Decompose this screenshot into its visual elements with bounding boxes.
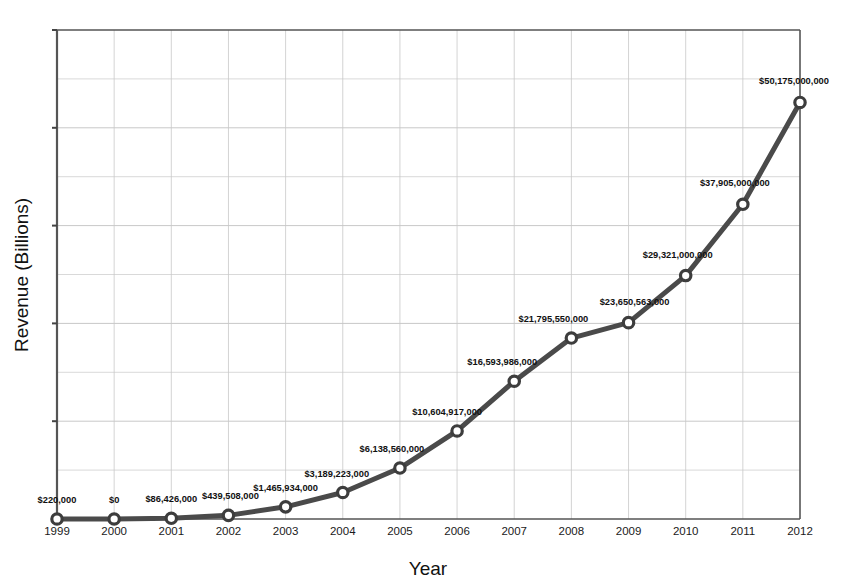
data-point-marker [338, 487, 348, 497]
x-axis-tick-label: 2009 [616, 525, 642, 537]
x-axis-tick-label: 2002 [216, 525, 242, 537]
x-axis-tick-label: 1999 [44, 525, 70, 537]
x-axis-tick-label: 2007 [501, 525, 527, 537]
y-axis-title: Revenue (Billions) [11, 198, 32, 352]
data-point-label: $29,321,000,000 [643, 250, 713, 260]
x-axis-tick-label: 2011 [730, 525, 755, 537]
x-axis-tick-label: 2006 [444, 525, 470, 537]
x-axis-tick-label: 2003 [273, 525, 299, 537]
x-axis-tick-label: 2000 [101, 525, 127, 537]
data-point-marker [166, 513, 176, 523]
x-axis-title: Year [409, 558, 448, 579]
data-point-marker [623, 317, 633, 327]
revenue-line-chart: $220,000$0$86,426,000$439,508,000$1,465,… [0, 0, 853, 587]
data-point-marker [738, 199, 748, 209]
data-point-label: $21,795,550,000 [518, 314, 588, 324]
data-point-label: $23,650,563,000 [600, 297, 670, 307]
data-point-label: $50,175,000,000 [759, 76, 829, 86]
x-axis-tick-label: 2001 [159, 525, 185, 537]
data-point-label: $6,138,560,000 [360, 444, 425, 454]
x-axis-tick-label: 2005 [387, 525, 413, 537]
x-axis-tick-label: 2012 [787, 525, 813, 537]
data-point-marker [223, 510, 233, 520]
x-axis-tick-label: 2010 [673, 525, 699, 537]
data-point-label: $3,189,223,000 [304, 469, 369, 479]
x-axis-tick-label: 2008 [559, 525, 585, 537]
data-point-label: $0 [109, 495, 119, 505]
data-point-label: $439,508,000 [202, 491, 259, 501]
data-point-marker [452, 426, 462, 436]
data-point-marker [566, 333, 576, 343]
data-point-label: $86,426,000 [145, 494, 197, 504]
data-point-label: $10,604,917,000 [412, 407, 482, 417]
data-point-marker [280, 502, 290, 512]
data-point-marker [680, 270, 690, 280]
data-point-label: $37,905,000,000 [700, 178, 770, 188]
data-point-marker [109, 514, 119, 524]
chart-background [0, 0, 853, 587]
data-point-marker [795, 97, 805, 107]
data-point-label: $220,000 [38, 495, 77, 505]
data-point-marker [509, 376, 519, 386]
data-point-marker [52, 514, 62, 524]
data-point-label: $16,593,986,000 [467, 357, 537, 367]
x-axis-tick-label: 2004 [330, 525, 356, 537]
data-point-marker [395, 463, 405, 473]
data-point-label: $1,465,934,000 [253, 483, 318, 493]
chart-canvas: $220,000$0$86,426,000$439,508,000$1,465,… [0, 0, 853, 587]
